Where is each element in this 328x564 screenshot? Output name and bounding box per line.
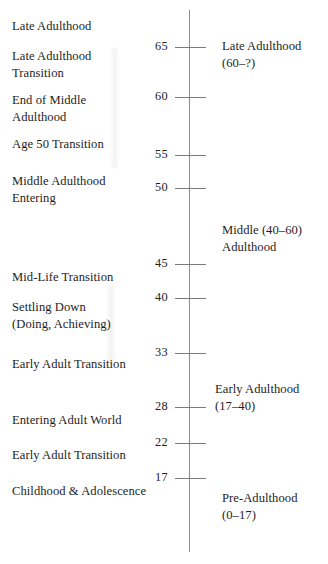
stage-settling-down: Settling Down (Doing, Achieving): [12, 299, 111, 332]
axis-tick-label-45: 45: [130, 257, 168, 270]
stage-late-adulthood: Late Adulthood: [12, 18, 91, 35]
axis-tick-60: [175, 97, 206, 98]
axis-tick-label-55: 55: [130, 148, 168, 161]
axis-tick-65: [175, 47, 206, 48]
axis-tick-55: [175, 155, 206, 156]
axis-tick-label-50: 50: [130, 181, 168, 194]
axis-tick-label-60: 60: [130, 90, 168, 103]
axis-tick-40: [175, 298, 206, 299]
axis-tick-50: [175, 188, 206, 189]
axis-tick-label-40: 40: [130, 291, 168, 304]
scan-smudge: [112, 48, 118, 168]
stage-entering-adult-world: Entering Adult World: [12, 412, 122, 429]
stage-early-adult-transition-lower: Early Adult Transition: [12, 447, 126, 464]
axis-tick-33: [175, 353, 206, 354]
axis-tick-17: [175, 478, 206, 479]
axis-tick-28: [175, 407, 206, 408]
axis-tick-label-28: 28: [130, 400, 168, 413]
stage-middle-adulthood-entering: Middle Adulthood Entering: [12, 173, 106, 206]
axis-tick-45: [175, 264, 206, 265]
axis-tick-label-33: 33: [130, 346, 168, 359]
stage-end-of-middle-adulthood: End of Middle Adulthood: [12, 92, 86, 125]
era-early-adulthood: Early Adulthood (17–40): [215, 381, 299, 414]
life-structure-timeline-diagram: 65 60 55 50 45 40 33 28 22 17 Late Adult…: [0, 0, 328, 564]
era-middle-adulthood: Middle (40–60) Adulthood: [222, 222, 302, 255]
axis-tick-22: [175, 443, 206, 444]
stage-mid-life-transition: Mid-Life Transition: [12, 269, 113, 286]
era-late-adulthood: Late Adulthood (60–?): [222, 38, 301, 71]
stage-childhood-and-adolescence: Childhood & Adolescence: [12, 483, 146, 500]
age-axis-line: [189, 10, 190, 552]
era-pre-adulthood: Pre-Adulthood (0–17): [222, 490, 298, 523]
stage-early-adult-transition-upper: Early Adult Transition: [12, 356, 126, 373]
stage-age-50-transition: Age 50 Transition: [12, 136, 104, 153]
axis-tick-label-22: 22: [130, 436, 168, 449]
axis-tick-label-65: 65: [130, 40, 168, 53]
stage-late-adulthood-transition: Late Adulthood Transition: [12, 48, 91, 81]
